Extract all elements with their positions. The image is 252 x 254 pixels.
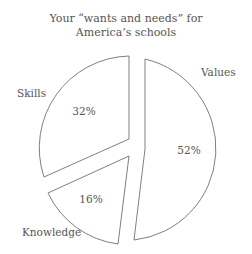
label-values: Values bbox=[200, 66, 236, 78]
pct-skills: 32% bbox=[72, 105, 95, 117]
pct-values: 52% bbox=[177, 144, 200, 156]
pie-chart: Skills Knowledge Values 32% 16% 52% bbox=[0, 0, 252, 254]
label-skills: Skills bbox=[17, 87, 46, 99]
pie-slice-values bbox=[134, 59, 216, 240]
pct-knowledge: 16% bbox=[79, 193, 102, 205]
label-knowledge: Knowledge bbox=[22, 226, 81, 238]
